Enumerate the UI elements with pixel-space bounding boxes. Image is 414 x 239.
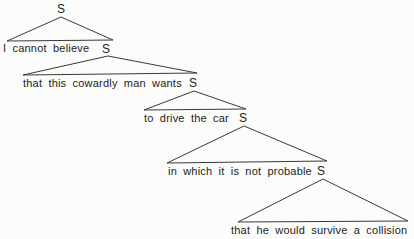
phrase-level-4: in which it is not probable <box>168 166 312 177</box>
phrase-level-5: that he would survive a collision <box>231 225 407 236</box>
phrase-level-3: to drive the car <box>144 113 229 124</box>
syntax-tree-diagram: S I cannot believe S that this cowardly … <box>0 0 414 239</box>
triangle-level-5 <box>238 179 408 222</box>
s-node-level-1: S <box>102 43 110 55</box>
phrase-level-1: I cannot believe <box>3 43 89 54</box>
s-node-level-2: S <box>189 77 197 89</box>
phrase-level-2: that this cowardly man wants <box>23 78 182 89</box>
triangle-level-3 <box>144 91 246 110</box>
s-node-level-4: S <box>317 165 325 177</box>
s-node-level-3: S <box>239 112 247 124</box>
triangle-level-1 <box>7 17 113 41</box>
triangle-level-2 <box>23 56 197 75</box>
s-node-root: S <box>57 3 65 15</box>
triangle-level-4 <box>167 126 327 163</box>
